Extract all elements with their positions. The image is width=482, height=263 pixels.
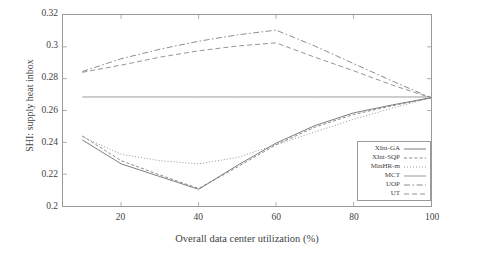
legend-label: UOP	[386, 181, 403, 188]
legend-item[interactable]: MCT	[360, 171, 427, 180]
legend-line-sample	[403, 145, 427, 153]
legend-label: XInt-GA	[375, 145, 403, 152]
series-line-uop	[82, 30, 431, 98]
legend-label: MinHR-m	[371, 163, 403, 170]
x-tick-label: 80	[349, 213, 359, 223]
x-tick-label: 100	[425, 213, 439, 223]
x-tick-label: 40	[194, 213, 204, 223]
legend-item[interactable]: MinHR-m	[360, 162, 427, 171]
x-tick-label: 20	[116, 213, 126, 223]
chart-figure: 0.20.220.240.260.280.30.32 20406080100 S…	[0, 0, 482, 263]
legend: XInt-GAXInt-SQPMinHR-mMCTUOPUT	[357, 141, 431, 201]
legend-label: XInt-SQP	[372, 154, 403, 161]
legend-item[interactable]: XInt-SQP	[360, 153, 427, 162]
legend-item[interactable]: UOP	[360, 180, 427, 189]
legend-line-sample	[403, 172, 427, 180]
legend-line-sample	[403, 163, 427, 171]
legend-item[interactable]: UT	[360, 189, 427, 198]
legend-line-sample	[403, 181, 427, 189]
legend-line-sample	[403, 190, 427, 198]
legend-label: MCT	[385, 172, 403, 179]
y-axis-label: SHI: supply heat inbox	[24, 11, 35, 201]
legend-label: UT	[391, 190, 403, 197]
x-axis-label: Overall data center utilization (%)	[62, 233, 432, 244]
x-tick-label: 60	[271, 213, 281, 223]
series-line-ut	[82, 43, 431, 98]
legend-line-sample	[403, 154, 427, 162]
legend-item[interactable]: XInt-GA	[360, 144, 427, 153]
